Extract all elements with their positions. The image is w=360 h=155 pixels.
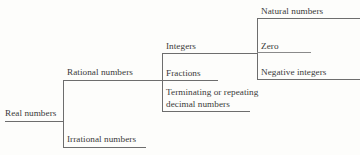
node-fractions: Fractions (166, 68, 201, 79)
underline-integers (162, 53, 257, 54)
node-decimals-line-1: Terminating or repeating (166, 87, 258, 99)
node-natural-numbers: Natural numbers (261, 6, 323, 17)
node-zero: Zero (261, 41, 279, 52)
node-decimals-line-2: decimal numbers (166, 99, 258, 111)
underline-natural-numbers (257, 18, 360, 19)
connector-integers-vertical (257, 18, 258, 79)
underline-terminating-repeating-decimals (162, 111, 250, 112)
underline-fractions (162, 80, 218, 81)
underline-irrational-numbers (63, 147, 146, 148)
underline-rational-numbers (63, 80, 162, 81)
underline-negative-integers (257, 79, 360, 80)
underline-zero (257, 52, 311, 53)
node-irrational-numbers: Irrational numbers (67, 134, 136, 145)
node-rational-numbers: Rational numbers (67, 67, 133, 78)
number-classification-diagram: Real numbers Rational numbers Irrational… (0, 0, 360, 155)
connector-rational-numbers-vertical (162, 53, 163, 111)
node-real-numbers: Real numbers (5, 108, 56, 119)
node-terminating-repeating-decimals: Terminating or repeating decimal numbers (166, 87, 258, 110)
underline-real-numbers (5, 121, 63, 122)
connector-real-numbers-vertical (63, 80, 64, 148)
node-integers: Integers (166, 41, 196, 52)
node-negative-integers: Negative integers (261, 67, 326, 78)
